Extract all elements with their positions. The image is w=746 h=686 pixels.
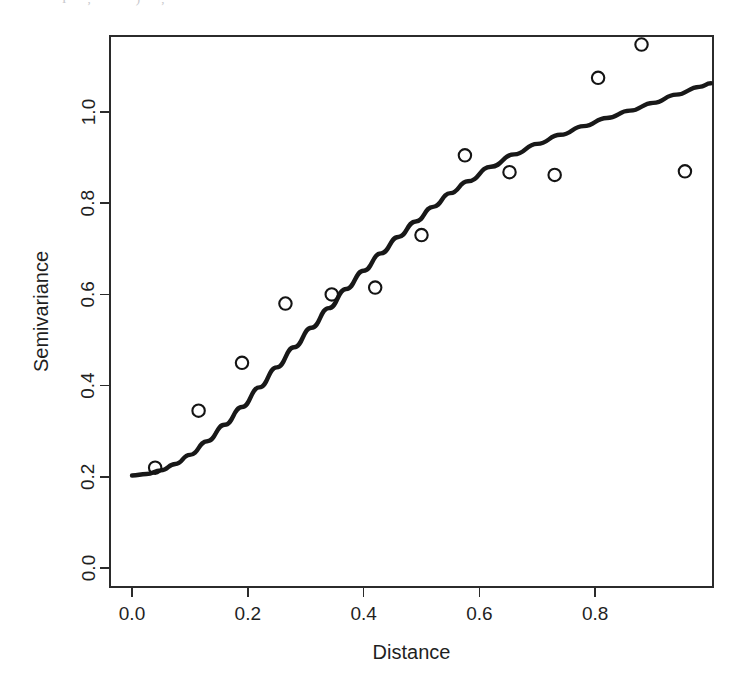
data-point-2 — [236, 357, 248, 369]
x-axis-tick-labels: 0.00.20.40.60.8 — [119, 603, 609, 624]
y-tick-label-4: 0.8 — [78, 190, 99, 216]
fitted-model-curve — [132, 83, 711, 475]
y-axis-tick-labels: 0.00.20.40.60.81.0 — [78, 99, 99, 581]
y-tick-label-1: 0.2 — [78, 464, 99, 490]
data-point-6 — [415, 229, 427, 241]
x-tick-label-1: 0.2 — [235, 603, 261, 624]
data-point-3 — [279, 297, 291, 309]
x-tick-label-2: 0.4 — [350, 603, 377, 624]
data-point-9 — [548, 169, 560, 181]
data-point-group — [149, 38, 691, 474]
chart-canvas: 0.00.20.40.60.8 0.00.20.40.60.81.0 Dista… — [0, 0, 746, 686]
data-point-12 — [679, 165, 691, 177]
data-point-8 — [503, 166, 515, 178]
data-point-11 — [635, 38, 647, 50]
data-point-1 — [192, 404, 204, 416]
x-axis-title: Distance — [373, 641, 451, 663]
y-tick-label-0: 0.0 — [78, 555, 99, 581]
semivariogram-figure: I , ' ) , 0.00.20.40.60.8 0.00.20.40.60.… — [0, 0, 746, 686]
data-point-7 — [459, 149, 471, 161]
data-point-4 — [326, 288, 338, 300]
y-axis-ticks — [100, 112, 110, 568]
y-tick-label-3: 0.6 — [78, 281, 99, 307]
y-tick-label-5: 1.0 — [78, 99, 99, 125]
plot-frame — [110, 36, 713, 587]
data-point-10 — [592, 72, 604, 84]
data-point-5 — [369, 281, 381, 293]
y-tick-label-2: 0.4 — [78, 372, 99, 399]
x-tick-label-0: 0.0 — [119, 603, 145, 624]
x-axis-ticks — [132, 587, 595, 597]
x-tick-label-4: 0.8 — [582, 603, 608, 624]
x-tick-label-3: 0.6 — [466, 603, 492, 624]
y-axis-title: Semivariance — [30, 251, 52, 372]
